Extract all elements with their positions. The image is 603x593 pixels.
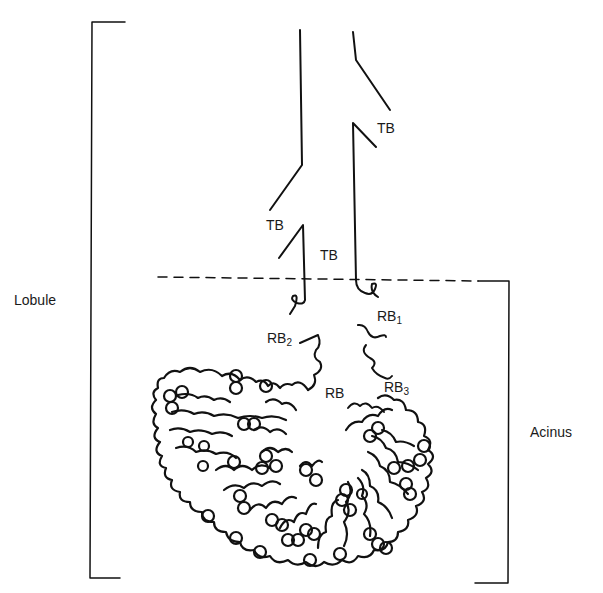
rb-label-center: RB [325,386,344,400]
respiratory-bronchiole-1 [358,325,386,337]
tb-label-left: TB [266,218,284,232]
alveolar-cluster [152,368,433,566]
rb2-label-main: RB [267,330,286,346]
rb1-label-main: RB [377,308,396,324]
lung-lobule-diagram [0,0,603,593]
tb-label-upper-right: TB [377,121,395,135]
rb3-label-subscript: 3 [403,386,409,397]
terminal-bronchiole-right-branch [353,123,378,297]
tb-label-center: TB [320,248,338,262]
acinus-label: Acinus [530,425,572,439]
acinus-boundary-dashed-line [158,277,478,281]
terminal-bronchiole-left-wall [270,30,302,210]
rb2-label: RB2 [267,331,292,348]
terminal-bronchiole-left-branch [279,225,305,314]
acinus-bracket [475,281,509,583]
respiratory-bronchiole-1-lower [364,345,392,379]
rb2-label-subscript: 2 [286,337,292,348]
lobule-label: Lobule [14,293,56,307]
rb1-label-subscript: 1 [396,315,402,326]
rb3-label: RB3 [384,380,409,397]
rb3-label-main: RB [384,379,403,395]
respiratory-bronchiole-2 [300,335,321,390]
terminal-bronchiole-right-wall [353,32,390,110]
lobule-bracket [90,22,125,578]
rb1-label: RB1 [377,309,402,326]
respiratory-bronchiole-3 [348,403,384,412]
